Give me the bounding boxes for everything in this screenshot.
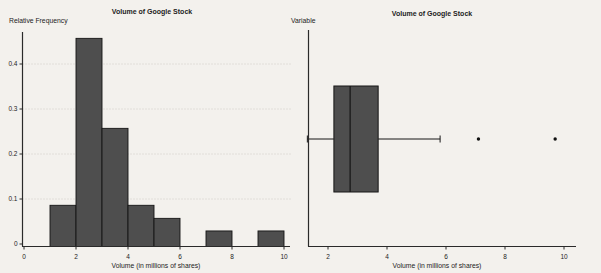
boxplot-x-axis-label: Volume (in millions of shares) — [393, 262, 482, 270]
y-tick-label: 0.2 — [8, 150, 17, 157]
iqr-box — [334, 86, 378, 192]
histogram-bar — [206, 231, 232, 247]
y-tick-label: 0.4 — [8, 60, 17, 67]
boxplot-box — [334, 86, 378, 192]
x-tick-label: 0 — [22, 253, 26, 260]
histogram-x-ticks: 0246810 — [22, 247, 288, 260]
histogram-y-axis-label: Relative Frequency — [9, 17, 68, 25]
histogram-bar — [258, 231, 284, 247]
y-tick-label: 0 — [14, 240, 18, 247]
x-tick-label: 10 — [280, 253, 288, 260]
x-tick-label: 6 — [178, 253, 182, 260]
y-tick-label: 0.1 — [8, 195, 17, 202]
histogram-y-ticks: 00.10.20.30.4 — [8, 60, 22, 247]
y-tick-label: 0.3 — [8, 105, 17, 112]
scanned-figure-page: Volume of Google Stock Relative Frequenc… — [0, 0, 601, 273]
histogram-gridlines — [23, 64, 293, 199]
x-tick-label: 10 — [560, 253, 568, 260]
x-tick-label: 2 — [326, 253, 330, 260]
histogram-bars — [50, 38, 284, 246]
x-tick-label: 2 — [74, 253, 78, 260]
histogram-title: Volume of Google Stock — [112, 8, 192, 16]
x-tick-label: 8 — [230, 253, 234, 260]
x-tick-label: 6 — [444, 253, 448, 260]
outlier-point — [553, 137, 556, 140]
x-tick-label: 8 — [503, 253, 507, 260]
boxplot-outliers — [477, 137, 557, 140]
histogram-bar — [102, 128, 128, 246]
boxplot-variable-label: Variable — [291, 17, 316, 24]
histogram-x-axis-label: Volume (in millions of shares) — [112, 262, 201, 270]
histogram-bar — [76, 38, 102, 246]
boxplot-title: Volume of Google Stock — [392, 10, 472, 18]
boxplot-chart: Volume of Google Stock Variable 246810 V… — [291, 10, 576, 270]
histogram-chart: Volume of Google Stock Relative Frequenc… — [8, 8, 292, 270]
outlier-point — [477, 137, 480, 140]
x-tick-label: 4 — [126, 253, 130, 260]
charts-canvas: Volume of Google Stock Relative Frequenc… — [0, 0, 601, 273]
histogram-bar — [50, 205, 76, 246]
histogram-bar — [128, 205, 154, 246]
histogram-bar — [154, 218, 180, 246]
x-tick-label: 4 — [385, 253, 389, 260]
boxplot-x-ticks: 246810 — [326, 247, 568, 260]
